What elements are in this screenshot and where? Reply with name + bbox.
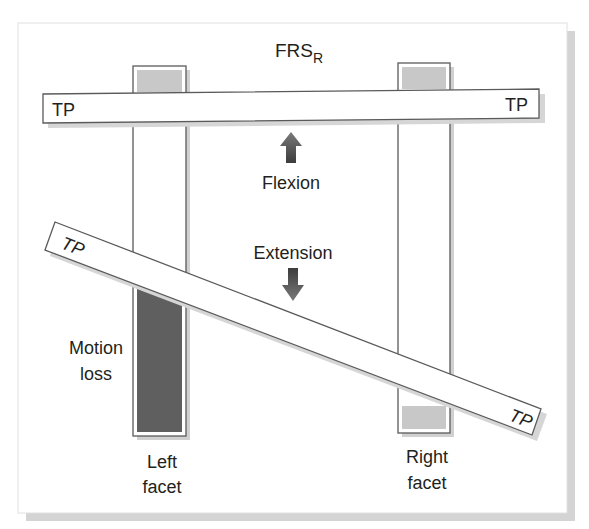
facet-motion-diagram: FRSR TP TP TP TP Flexion Extension Motio… (0, 0, 589, 529)
horizontal-bar-left-label: TP (52, 100, 75, 120)
right-facet-bottom-fill (402, 406, 446, 429)
extension-label: Extension (253, 243, 332, 263)
motion-loss-fill (137, 283, 182, 432)
left-facet-label-line2: facet (142, 477, 181, 497)
right-facet-label-line1: Right (406, 447, 448, 467)
motion-loss-label-line1: Motion (69, 338, 123, 358)
right-facet-label-line2: facet (407, 473, 446, 493)
left-facet-top-fill (137, 70, 182, 92)
horizontal-bar-right-label: TP (505, 95, 528, 115)
left-facet-label-line1: Left (147, 452, 177, 472)
right-facet-top-fill (402, 67, 446, 89)
flexion-label: Flexion (262, 173, 320, 193)
motion-loss-label-line2: loss (80, 364, 112, 384)
horizontal-tp-bar (43, 89, 545, 128)
